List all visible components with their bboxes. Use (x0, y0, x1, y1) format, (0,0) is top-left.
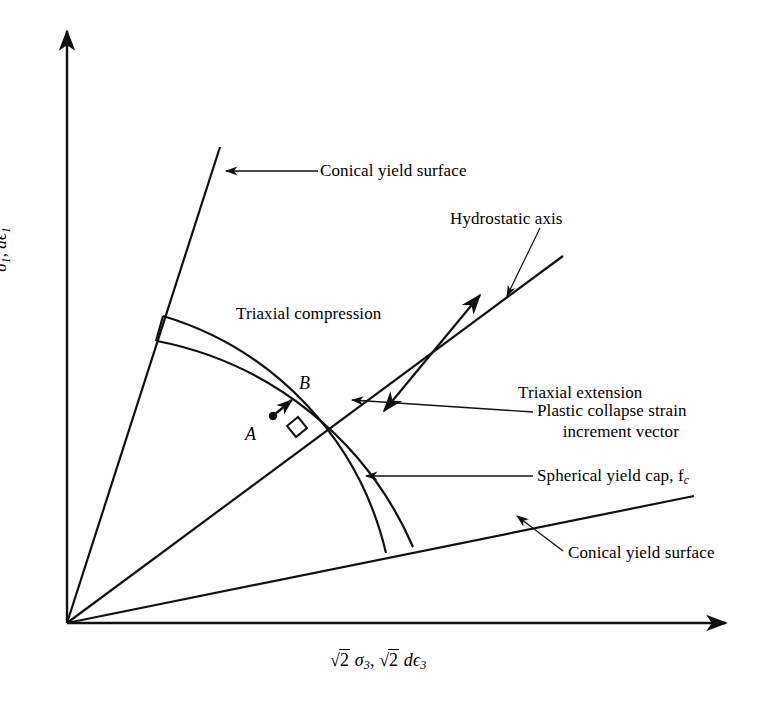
label-conical-yield-surface-bottom: Conical yield surface (568, 542, 715, 563)
figure-root: σ1, dϵ1 √2 σ3, √2 dϵ3 Conical yield surf… (0, 0, 760, 701)
y-axis-sep: , (0, 249, 10, 258)
x-axis-radicand-2: 2 (388, 649, 399, 670)
y-axis-deps-sub: 1 (0, 227, 13, 233)
strain-increment-arrow (274, 400, 292, 415)
spherical-yield-cap-sub: c (684, 474, 689, 487)
label-point-b: B (299, 372, 310, 395)
point-a-marker (269, 412, 277, 420)
conical-yield-surface-upper-line (67, 147, 220, 623)
axis-group (67, 31, 726, 623)
x-axis-radical-1: √2 (330, 648, 350, 672)
y-axis-label: σ1, dϵ1 (0, 152, 14, 272)
right-angle-marker (287, 417, 307, 437)
x-axis-sep: , (370, 650, 375, 670)
label-conical-yield-surface-top: Conical yield surface (320, 160, 467, 181)
y-axis-sigma-sub: 1 (0, 257, 13, 263)
spherical-yield-cap-text: Spherical yield cap, f (537, 466, 684, 485)
x-axis-label: √2 σ3, √2 dϵ3 (330, 648, 427, 674)
x-axis-radical-2: √2 (379, 648, 399, 672)
y-axis-deps: dϵ1 (0, 227, 10, 248)
spherical-yield-cap-f: c (684, 466, 689, 485)
leader-conical-lower (517, 516, 563, 551)
label-triaxial-compression: Triaxial compression (236, 303, 381, 324)
triaxial-double-arrow-line (384, 295, 480, 411)
label-spherical-yield-cap: Spherical yield cap, fc (537, 465, 689, 489)
triaxial-direction-double-arrow (384, 295, 480, 411)
yield-surface-diagram (0, 0, 760, 701)
x-axis-deps-sub: 3 (420, 658, 426, 672)
spherical-yield-cap (156, 316, 413, 553)
label-hydrostatic-axis: Hydrostatic axis (450, 208, 563, 229)
leader-plastic-collapse (352, 400, 533, 412)
label-plastic-collapse-strain-increment-vector: Plastic collapse strain increment vector (537, 400, 687, 443)
y-axis-sigma: σ1 (0, 257, 10, 271)
x-axis-radicand-1: 2 (339, 649, 350, 670)
x-axis-deps: dϵ3 (404, 650, 427, 670)
x-axis-sigma: σ3 (355, 650, 370, 670)
label-point-a: A (245, 423, 256, 446)
plastic-collapse-line-2: increment vector (563, 421, 679, 442)
plastic-collapse-line-1: Plastic collapse strain (537, 401, 687, 420)
